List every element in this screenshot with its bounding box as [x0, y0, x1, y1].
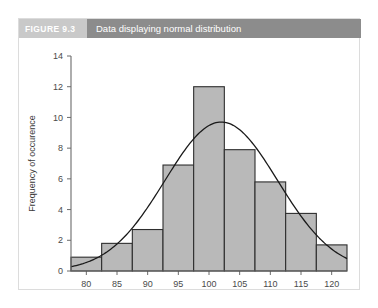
histogram-bar — [132, 230, 163, 271]
histogram-bar — [194, 87, 225, 271]
x-tick-label: 105 — [232, 279, 247, 289]
figure-box: FIGURE 9.3 Data displaying normal distri… — [18, 18, 360, 290]
y-tick-label: 0 — [58, 266, 63, 276]
x-tick-label: 115 — [294, 279, 308, 289]
y-tick-label: 8 — [58, 143, 63, 153]
x-tick-label: 95 — [173, 279, 183, 289]
y-axis-ticks: 02468101214 — [53, 51, 71, 276]
x-tick-label: 80 — [81, 279, 91, 289]
x-tick-label: 100 — [201, 279, 216, 289]
x-axis-ticks: 80859095100105110115120 — [81, 271, 339, 289]
histogram-bar — [286, 213, 317, 271]
figure-header: FIGURE 9.3 Data displaying normal distri… — [19, 19, 361, 38]
histogram-bar — [102, 243, 133, 271]
y-tick-label: 14 — [53, 51, 63, 61]
x-tick-label: 90 — [143, 279, 153, 289]
y-tick-label: 12 — [53, 82, 63, 92]
x-tick-label: 110 — [263, 279, 277, 289]
y-axis-title: Frequency of occurence — [27, 115, 37, 212]
figure-title: Data displaying normal distribution — [87, 19, 361, 38]
histogram-bar — [71, 257, 102, 271]
x-tick-label: 85 — [112, 279, 122, 289]
histogram-bar — [224, 150, 255, 271]
y-tick-label: 4 — [58, 205, 63, 215]
histogram-bar — [255, 182, 286, 271]
y-tick-label: 6 — [58, 174, 63, 184]
figure-number-label: FIGURE 9.3 — [19, 19, 87, 38]
histogram-bar — [163, 165, 194, 271]
y-tick-label: 2 — [58, 235, 63, 245]
x-tick-label: 120 — [324, 279, 339, 289]
histogram-plot: 02468101214 80859095100105110115120 IQ F… — [19, 38, 361, 290]
y-tick-label: 10 — [53, 113, 63, 123]
histogram-svg: 02468101214 80859095100105110115120 IQ F… — [19, 38, 361, 290]
histogram-bars — [71, 87, 347, 271]
